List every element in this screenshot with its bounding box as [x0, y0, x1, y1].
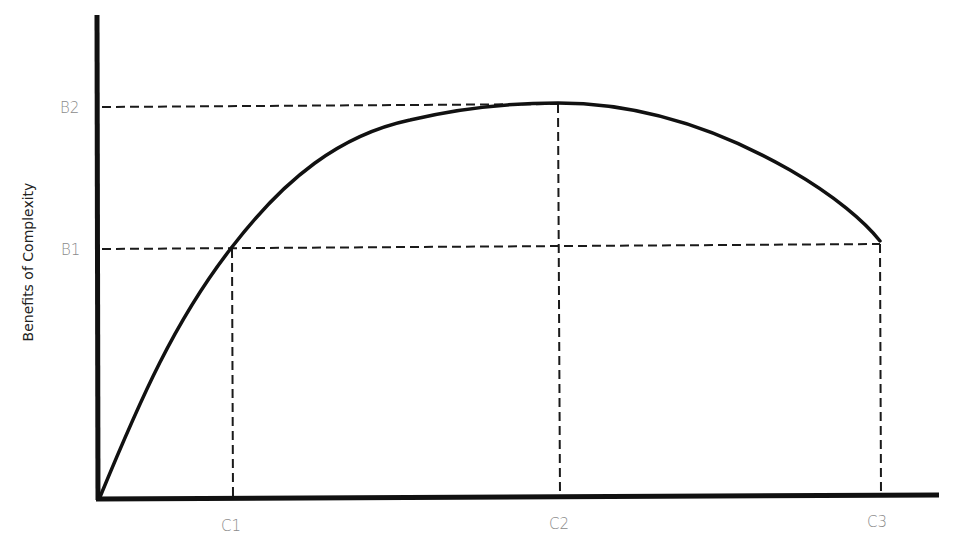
- x-tick-c1: C1: [221, 517, 241, 535]
- ref-line-c1: [232, 249, 233, 497]
- x-tick-c2: C2: [549, 515, 569, 533]
- y-axis: [97, 15, 98, 500]
- ref-line-b1: [102, 244, 880, 249]
- x-tick-c3: C3: [867, 513, 887, 531]
- y-tick-b2: B2: [60, 99, 79, 117]
- ref-line-c2: [558, 104, 560, 496]
- y-tick-b1: B1: [61, 241, 80, 259]
- ref-line-c3: [880, 244, 881, 494]
- y-axis-title: Benefits of Complexity: [20, 183, 36, 342]
- benefits-of-complexity-chart: B2 B1 C1 C2 C3 Benefits of Complexity: [0, 0, 956, 559]
- x-axis: [96, 495, 939, 499]
- benefits-curve: [100, 103, 880, 497]
